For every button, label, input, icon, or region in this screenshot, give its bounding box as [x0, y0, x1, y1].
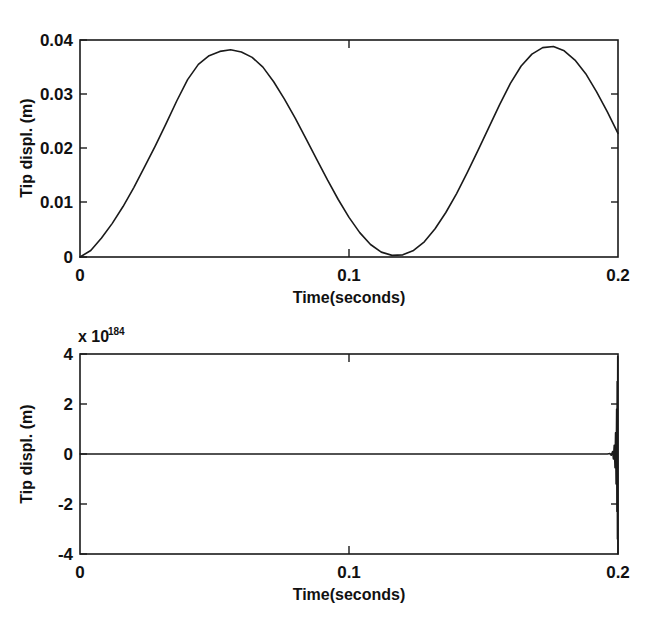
top-xtick-label-0: 0 — [75, 266, 84, 285]
top-xtick-label-1: 0.1 — [337, 266, 361, 285]
top-plot-svg: 0.04 0.03 0.02 0.01 0 0 0.1 0.2 Time(sec… — [0, 0, 665, 320]
bottom-exponent-base: x 10 — [78, 328, 109, 345]
top-data-series — [80, 47, 618, 257]
top-ytick-label-0: 0 — [64, 248, 73, 267]
top-plot-frame — [80, 40, 618, 257]
bottom-yaxis-title: Tip displ. (m) — [18, 404, 35, 503]
bottom-ytick-label-1: -2 — [58, 495, 73, 514]
bottom-xtick-label-2: 0.2 — [606, 563, 630, 582]
top-yaxis-title: Tip displ. (m) — [18, 98, 35, 197]
bottom-axis-exponent: x 10 184 — [78, 326, 125, 345]
bottom-ytick-label-3: 2 — [64, 395, 73, 414]
bottom-xaxis-title: Time(seconds) — [293, 586, 406, 603]
top-ytick-label-2: 0.02 — [40, 139, 73, 158]
bottom-ytick-label-4: 4 — [64, 345, 74, 364]
chart-panel-bottom: 4 2 0 -2 -4 x 10 184 0 0.1 0.2 Time(seco… — [0, 320, 665, 629]
top-xtick-label-2: 0.2 — [606, 266, 630, 285]
top-y-ticks — [80, 40, 87, 257]
bottom-ytick-label-2: 0 — [64, 445, 73, 464]
top-ytick-label-1: 0.01 — [40, 193, 73, 212]
top-xaxis-title: Time(seconds) — [293, 289, 406, 306]
bottom-xtick-label-1: 0.1 — [337, 563, 361, 582]
chart-panel-top: 0.04 0.03 0.02 0.01 0 0 0.1 0.2 Time(sec… — [0, 0, 665, 320]
top-ytick-label-4: 0.04 — [40, 31, 74, 50]
figure-container: 0.04 0.03 0.02 0.01 0 0 0.1 0.2 Time(sec… — [0, 0, 665, 629]
bottom-exponent-superscript: 184 — [108, 326, 125, 337]
bottom-data-series — [80, 357, 618, 555]
top-ytick-label-3: 0.03 — [40, 85, 73, 104]
top-y-ticks-right — [611, 94, 618, 202]
bottom-ytick-label-0: -4 — [58, 545, 74, 564]
bottom-xtick-label-0: 0 — [75, 563, 84, 582]
bottom-plot-svg: 4 2 0 -2 -4 x 10 184 0 0.1 0.2 Time(seco… — [0, 320, 665, 629]
